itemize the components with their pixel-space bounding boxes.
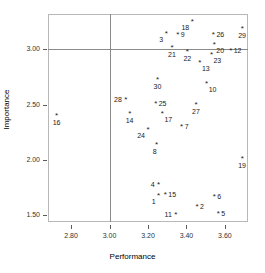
x-tick-mark (110, 225, 111, 229)
x-tick-mark (186, 225, 187, 229)
y-tick-label: 2.00 (18, 156, 40, 164)
x-tick-label: 3.00 (97, 232, 123, 240)
y-tick-mark (43, 49, 47, 50)
plot-area-frame (48, 14, 248, 222)
x-tick-mark (71, 225, 72, 229)
y-tick-mark (43, 160, 47, 161)
scatter-chart: *1*2*3*4*5*6*7*8*9*10*11*12*13*14*15*16*… (0, 0, 265, 273)
x-axis-title: Performance (0, 252, 265, 261)
x-tick-label: 3.60 (212, 232, 238, 240)
x-tick-label: 2.80 (58, 232, 84, 240)
horizontal-mean-line (48, 49, 248, 50)
y-tick-mark (43, 105, 47, 106)
vertical-mean-line (110, 14, 111, 222)
y-tick-label: 2.50 (18, 101, 40, 109)
y-tick-label: 3.00 (18, 45, 40, 53)
y-tick-label: 1.50 (18, 211, 40, 219)
x-tick-mark (148, 225, 149, 229)
y-tick-mark (43, 215, 47, 216)
x-tick-mark (225, 225, 226, 229)
x-tick-label: 3.20 (135, 232, 161, 240)
y-axis-title: Importance (2, 60, 11, 160)
x-tick-label: 3.40 (173, 232, 199, 240)
